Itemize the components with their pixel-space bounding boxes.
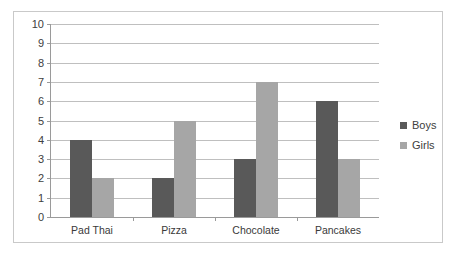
x-axis-category-label: Pad Thai: [51, 225, 133, 236]
bar-group: Pizza: [133, 24, 215, 217]
bar-girls[interactable]: [256, 82, 278, 217]
y-tick-mark: [47, 217, 51, 218]
bar-group: Pancakes: [297, 24, 379, 217]
bar-group: Pad Thai: [51, 24, 133, 217]
y-tick-label: 9: [38, 38, 44, 49]
bar-boys[interactable]: [70, 140, 92, 217]
y-tick-label: 5: [38, 115, 44, 126]
y-tick-label: 6: [38, 96, 44, 107]
y-tick-label: 1: [38, 192, 44, 203]
legend-swatch-icon: [400, 122, 407, 129]
y-tick-label: 8: [38, 57, 44, 68]
y-tick-label: 10: [32, 19, 44, 30]
bar-boys[interactable]: [152, 178, 174, 217]
legend-label: Girls: [412, 140, 435, 151]
chart-legend: BoysGirls: [400, 115, 454, 155]
category-separator-tick: [297, 217, 298, 221]
x-axis-category-label: Pancakes: [297, 225, 379, 236]
y-tick-label: 2: [38, 173, 44, 184]
bar-boys[interactable]: [316, 101, 338, 217]
category-separator-tick: [215, 217, 216, 221]
x-axis-category-label: Pizza: [133, 225, 215, 236]
y-tick-label: 7: [38, 76, 44, 87]
chart-frame: 012345678910 Pad ThaiPizzaChocolatePanca…: [13, 11, 443, 243]
y-tick-label: 3: [38, 154, 44, 165]
bar-group: Chocolate: [215, 24, 297, 217]
y-tick-label: 4: [38, 134, 44, 145]
plot-area: 012345678910 Pad ThaiPizzaChocolatePanca…: [51, 24, 379, 217]
legend-swatch-icon: [400, 142, 407, 149]
x-axis-category-label: Chocolate: [215, 225, 297, 236]
legend-label: Boys: [412, 120, 436, 131]
bar-girls[interactable]: [174, 121, 196, 218]
bar-boys[interactable]: [234, 159, 256, 217]
bar-girls[interactable]: [338, 159, 360, 217]
legend-item-boys[interactable]: Boys: [400, 115, 454, 135]
legend-item-girls[interactable]: Girls: [400, 135, 454, 155]
y-tick-label: 0: [38, 212, 44, 223]
category-separator-tick: [133, 217, 134, 221]
bar-girls[interactable]: [92, 178, 114, 217]
